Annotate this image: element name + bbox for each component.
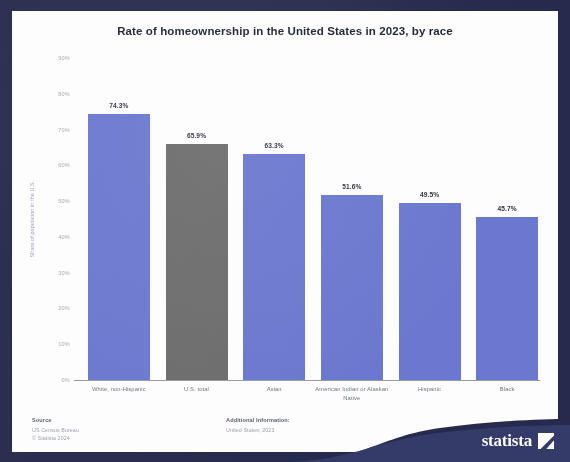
additional-information-heading: Additional Information:	[226, 417, 346, 423]
x-axis-category-label: U.S. total	[158, 385, 236, 403]
bar[interactable]: 51.6%	[321, 195, 383, 380]
y-axis-tick-label: 70%	[40, 127, 70, 133]
bar[interactable]: 65.9%	[166, 144, 228, 380]
y-axis-tick-label: 80%	[40, 91, 70, 97]
source-block: Source US Census Bureau © Statista 2024	[32, 417, 152, 442]
y-axis-tick-label: 40%	[40, 234, 70, 240]
y-axis-tick-label: 10%	[40, 341, 70, 347]
bar-value-label: 63.3%	[265, 142, 284, 149]
x-axis-category-labels: White, non-HispanicU.S. totalAsianAmeric…	[74, 385, 552, 403]
source-line: US Census Bureau	[32, 426, 152, 434]
additional-information-block: Additional Information: United States; 2…	[226, 417, 346, 442]
bar-value-label: 51.6%	[342, 183, 361, 190]
bar-slot: 74.3%	[80, 58, 158, 380]
y-axis-tick-label: 20%	[40, 305, 70, 311]
x-axis-category-label: White, non-Hispanic	[80, 385, 158, 403]
bar-value-label: 74.3%	[109, 102, 128, 109]
copyright-line: © Statista 2024	[32, 434, 152, 442]
plot-area: 74.3%65.9%63.3%51.6%49.5%45.7%	[74, 58, 552, 380]
y-axis-tick-label: 60%	[40, 162, 70, 168]
chart-title: Rate of homeownership in the United Stat…	[12, 25, 558, 37]
chart-footer: Source US Census Bureau © Statista 2024 …	[32, 417, 538, 442]
additional-information-line: United States; 2023	[226, 426, 346, 434]
y-axis-tick-label: 90%	[40, 55, 70, 61]
source-heading: Source	[32, 417, 152, 423]
x-axis-category-label: Asian	[235, 385, 313, 403]
y-axis-tick-label: 0%	[40, 377, 70, 383]
bar[interactable]: 45.7%	[476, 217, 538, 381]
bar-slot: 49.5%	[391, 58, 469, 380]
statista-chart-card: Rate of homeownership in the United Stat…	[12, 11, 558, 452]
y-axis-tick-labels: 90%80%70%60%50%40%30%20%10%0%	[40, 58, 70, 380]
x-axis-category-label: Hispanic	[391, 385, 469, 403]
statista-arrow-mark-icon	[538, 433, 554, 449]
bar-value-label: 45.7%	[498, 205, 517, 212]
bar[interactable]: 63.3%	[243, 154, 305, 380]
y-axis-title-text: Share of population in the U.S.	[29, 181, 35, 258]
y-axis-title: Share of population in the U.S.	[25, 58, 39, 380]
bar-slot: 45.7%	[468, 58, 546, 380]
bar-value-label: 65.9%	[187, 132, 206, 139]
x-axis-category-label: Black	[468, 385, 546, 403]
bar[interactable]: 49.5%	[399, 203, 461, 380]
bar-slot: 63.3%	[235, 58, 313, 380]
bar[interactable]: 74.3%	[88, 114, 150, 380]
y-axis-tick-label: 50%	[40, 198, 70, 204]
bar-slot: 65.9%	[158, 58, 236, 380]
bar-series: 74.3%65.9%63.3%51.6%49.5%45.7%	[74, 58, 552, 380]
bar-slot: 51.6%	[313, 58, 391, 380]
x-axis-category-label: American Indian or Alaskan Native	[313, 385, 391, 403]
screenshot-root: Rate of homeownership in the United Stat…	[0, 0, 570, 462]
statista-logo: statista	[482, 431, 554, 451]
statista-wordmark: statista	[482, 431, 532, 451]
bar-value-label: 49.5%	[420, 191, 439, 198]
y-axis-tick-label: 30%	[40, 270, 70, 276]
x-axis-baseline	[74, 380, 540, 381]
